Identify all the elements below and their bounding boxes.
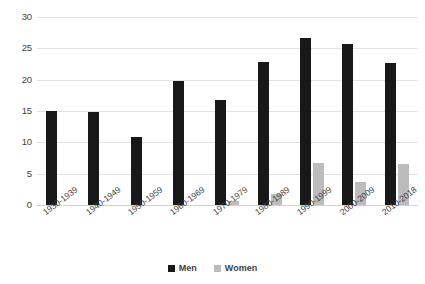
- bar-group: [206, 17, 248, 205]
- bar-chart: 051015202530 1930-19391940-19491950-1959…: [0, 0, 425, 284]
- bar-men[interactable]: [46, 111, 57, 205]
- bar-men[interactable]: [258, 62, 269, 205]
- men-swatch-icon: [168, 265, 175, 272]
- bar-group: [376, 17, 418, 205]
- bar-men[interactable]: [215, 100, 226, 205]
- y-tick-label: 15: [2, 106, 32, 116]
- bar-group: [164, 17, 206, 205]
- legend-item-men[interactable]: Men: [168, 264, 197, 273]
- y-tick-label: 25: [2, 43, 32, 53]
- bar-men[interactable]: [173, 81, 184, 205]
- bars-layer: [37, 17, 418, 205]
- bar-group: [291, 17, 333, 205]
- bar-men[interactable]: [300, 38, 311, 205]
- y-tick-label: 20: [2, 75, 32, 85]
- bar-men[interactable]: [385, 63, 396, 205]
- bar-group: [249, 17, 291, 205]
- x-axis: 1930-19391940-19491950-19591960-19691970…: [37, 205, 418, 257]
- y-axis: 051015202530: [0, 17, 32, 205]
- legend-label: Women: [225, 264, 257, 273]
- women-swatch-icon: [214, 265, 221, 272]
- y-tick-label: 5: [2, 169, 32, 179]
- legend-item-women[interactable]: Women: [214, 264, 257, 273]
- y-tick-label: 0: [2, 200, 32, 210]
- y-tick-label: 10: [2, 137, 32, 147]
- bar-men[interactable]: [88, 112, 99, 205]
- bar-group: [79, 17, 121, 205]
- bar-group: [122, 17, 164, 205]
- bar-group: [333, 17, 375, 205]
- legend-label: Men: [179, 264, 197, 273]
- bar-men[interactable]: [131, 137, 142, 205]
- y-tick-label: 30: [2, 12, 32, 22]
- bar-men[interactable]: [342, 44, 353, 205]
- chart-legend: MenWomen: [0, 260, 425, 276]
- bar-group: [37, 17, 79, 205]
